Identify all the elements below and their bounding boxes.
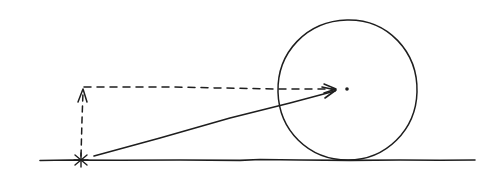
origin-asterisk-icon bbox=[74, 153, 88, 167]
horizontal-dashed-component bbox=[84, 87, 334, 89]
ground-line bbox=[40, 160, 475, 161]
vertical-dashed-component bbox=[81, 92, 83, 156]
center-dot bbox=[345, 87, 349, 91]
diagonal-vector bbox=[94, 91, 335, 156]
diagram-canvas bbox=[0, 0, 504, 179]
sketch-svg bbox=[0, 0, 504, 179]
